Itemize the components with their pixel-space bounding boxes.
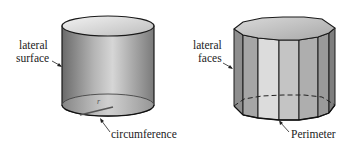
label-radius: r xyxy=(97,97,100,106)
label-lateral-faces-line2: faces xyxy=(198,52,222,64)
label-lateral-faces-line1: lateral xyxy=(193,39,222,51)
label-lateral-surface-line2: surface xyxy=(16,52,49,64)
cylinder xyxy=(52,16,154,132)
prism xyxy=(223,17,335,132)
prism-top xyxy=(234,17,335,40)
cylinder-top xyxy=(62,16,154,36)
arrowhead-icon xyxy=(57,63,62,67)
label-circumference: circumference xyxy=(111,128,177,140)
arrowhead-icon xyxy=(100,118,104,123)
arrowhead-icon xyxy=(228,65,233,69)
label-perimeter: Perimeter xyxy=(291,128,336,140)
label-lateral-surface-line1: lateral xyxy=(19,39,48,51)
